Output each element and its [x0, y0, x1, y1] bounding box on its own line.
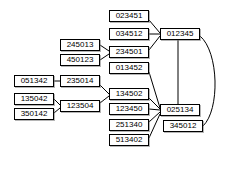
node-label: 123450 [116, 104, 143, 113]
edge-234501-012345 [149, 36, 160, 50]
node-135042[interactable]: 135042 [14, 93, 54, 105]
node-023451[interactable]: 023451 [109, 10, 149, 22]
edge-123504-134502 [100, 96, 109, 103]
node-235014[interactable]: 235014 [60, 75, 100, 87]
node-034512[interactable]: 034512 [109, 28, 149, 40]
node-label: 450123 [67, 55, 94, 64]
node-label: 513402 [116, 135, 143, 144]
edge-013452-025134 [149, 72, 160, 108]
node-label: 051342 [21, 76, 48, 85]
node-label: 025134 [167, 105, 194, 114]
node-123450[interactable]: 123450 [109, 103, 149, 115]
node-label: 123504 [67, 101, 94, 110]
edge-023451-012345 [149, 20, 160, 33]
node-013452[interactable]: 013452 [109, 62, 149, 74]
edge-450123-234501 [100, 54, 109, 60]
node-label: 023451 [116, 11, 143, 20]
permutation-graph: 0234510345120123452450132345014501230134… [0, 0, 227, 172]
node-123504[interactable]: 123504 [60, 100, 100, 112]
node-245013[interactable]: 245013 [60, 39, 100, 51]
edge-251340-025134 [149, 112, 160, 122]
node-350142[interactable]: 350142 [14, 108, 54, 120]
node-label: 135042 [21, 94, 48, 103]
edge-134502-025134 [149, 98, 160, 109]
node-450123[interactable]: 450123 [60, 54, 100, 66]
node-012345[interactable]: 012345 [160, 28, 200, 40]
edge-012345-345012 [200, 36, 215, 126]
node-345012[interactable]: 345012 [163, 120, 203, 132]
node-label: 245013 [67, 40, 94, 49]
node-234501[interactable]: 234501 [109, 46, 149, 58]
node-513402[interactable]: 513402 [109, 134, 149, 146]
node-label: 034512 [116, 29, 143, 38]
edge-123450-025134 [149, 109, 160, 110]
node-label: 345012 [170, 121, 197, 130]
edge-245013-234501 [100, 45, 109, 51]
node-label: 234501 [116, 47, 143, 56]
edge-513402-025134 [149, 114, 160, 138]
node-label: 012345 [167, 29, 194, 38]
node-134502[interactable]: 134502 [109, 88, 149, 100]
node-label: 235014 [67, 76, 94, 85]
node-label: 134502 [116, 89, 143, 98]
node-label: 251340 [116, 120, 143, 129]
node-251340[interactable]: 251340 [109, 119, 149, 131]
node-label: 013452 [116, 63, 143, 72]
edge-235014-134502 [100, 85, 109, 94]
node-025134[interactable]: 025134 [160, 104, 200, 116]
node-051342[interactable]: 051342 [14, 75, 54, 87]
node-label: 350142 [21, 109, 48, 118]
